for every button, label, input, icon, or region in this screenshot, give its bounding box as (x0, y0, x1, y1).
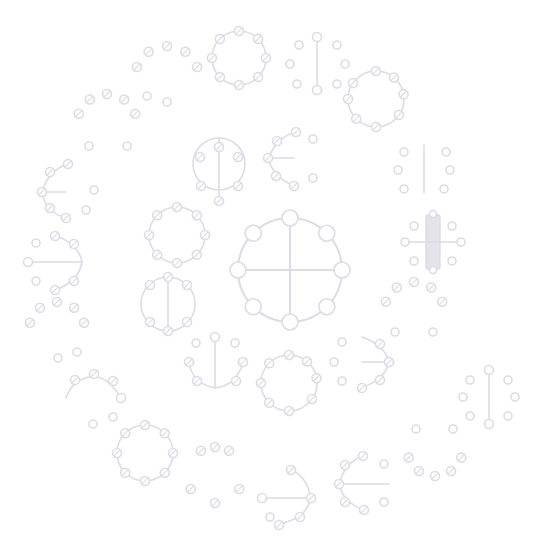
node-dot (192, 339, 200, 347)
node-dot (412, 425, 420, 433)
node-dot (400, 185, 408, 193)
glyph-inner-ring-bottom (257, 351, 322, 416)
node-dot (282, 314, 298, 330)
node-dot (143, 92, 151, 100)
glyph-inner-ring-left (145, 203, 210, 268)
node-dot (82, 206, 90, 214)
glyph-top-arc (132, 42, 201, 107)
node-dot (430, 211, 437, 218)
node-dot (309, 135, 317, 143)
glyph-inner-reverse-c-line (330, 337, 394, 393)
node-dot (230, 262, 246, 278)
node-dot (334, 262, 350, 278)
glyph-center-cross-ring (230, 210, 350, 330)
node-dot (410, 257, 418, 265)
glyph-bottom-left-arc (66, 370, 126, 429)
node-dot (245, 225, 261, 241)
glyph-bottom-c-line (335, 452, 390, 515)
glyph-top-dots-line (286, 33, 349, 95)
node-dot (391, 328, 399, 336)
glyph-inner-ring-left-vline (141, 273, 195, 336)
glyph-far-right-dots-line (459, 366, 519, 429)
node-dot (319, 299, 335, 315)
node-dot (266, 513, 274, 521)
node-dot (85, 142, 93, 150)
node-dot (89, 420, 97, 428)
node-dot (338, 377, 346, 385)
node-dot (313, 33, 322, 42)
node-dot (429, 328, 437, 336)
node-dot (286, 60, 294, 68)
node-dot (231, 339, 239, 347)
node-dot (338, 338, 346, 346)
node-dot (32, 277, 40, 285)
glyph-right-bar-crossed (401, 211, 465, 274)
glyph-top-ring (208, 27, 271, 90)
node-dot (380, 498, 388, 506)
glyph-bottom-left-ring (113, 421, 178, 486)
node-dot (330, 358, 338, 366)
node-dot (333, 80, 341, 88)
node-dot (282, 210, 298, 226)
node-dot (319, 225, 335, 241)
node-dot (123, 142, 131, 150)
node-dot (163, 98, 171, 106)
node-dot (430, 267, 437, 274)
node-dot (293, 80, 301, 88)
node-dot (313, 86, 322, 95)
node-dot (73, 348, 81, 356)
glyph-top-right-ring (344, 67, 409, 132)
node-dot (466, 412, 474, 420)
node-dot (258, 494, 267, 503)
node-dot (117, 394, 126, 403)
node-dot (401, 238, 409, 246)
node-dot (504, 376, 512, 384)
node-dot (24, 258, 33, 267)
node-dot (485, 366, 494, 375)
glyph-inner-ring-top-left (193, 138, 245, 206)
node-dot (466, 376, 474, 384)
node-dot (410, 222, 418, 230)
node-dot (245, 299, 261, 315)
node-dot (440, 185, 448, 193)
glyph-inner-u-line (185, 333, 248, 389)
glyph-left-reverse-c-line (24, 232, 83, 295)
glyph-lower-left-arc (25, 298, 88, 363)
node-dot (504, 412, 512, 420)
ornament-canvas (0, 0, 544, 552)
node-dot (32, 239, 40, 247)
node-dot (90, 186, 98, 194)
glyph-left-c-line (38, 160, 99, 223)
node-dot (449, 425, 457, 433)
node-dot (341, 60, 349, 68)
node-dot (457, 238, 465, 246)
glyph-upper-left-arc (74, 90, 139, 151)
glyph-inner-c-line-top (264, 128, 318, 191)
node-dot (448, 222, 456, 230)
node-dot (448, 257, 456, 265)
node-dot (109, 413, 117, 421)
glyph-bottom-reverse-c-line (258, 466, 316, 530)
node-dot (394, 166, 402, 174)
node-dot (54, 354, 62, 362)
glyph-inner-arc-right (381, 278, 446, 337)
node-dot (442, 148, 450, 156)
node-dot (400, 148, 408, 156)
node-dot (459, 393, 467, 401)
node-dot (511, 393, 519, 401)
glyph-right-dots-line (394, 145, 454, 193)
node-dot (485, 420, 494, 429)
node-dot (333, 41, 341, 49)
glyph-bottom-ring-open (186, 443, 243, 508)
node-dot (380, 460, 388, 468)
node-dot (309, 174, 317, 182)
node-dot (446, 166, 454, 174)
glyph-bottom-right-arc (404, 425, 466, 481)
node-dot (295, 41, 303, 49)
node-dot (211, 333, 220, 342)
